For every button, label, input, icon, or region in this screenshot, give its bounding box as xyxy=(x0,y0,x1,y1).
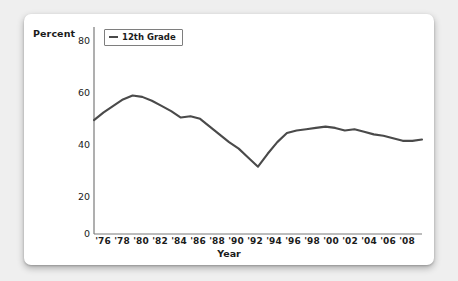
chart-figure: Percent 80 60 40 20 0 '76 '78 '80 '82 '8… xyxy=(24,14,434,265)
plot-canvas xyxy=(24,14,434,265)
legend-item-label: 12th Grade xyxy=(122,32,176,42)
screenshot-root: Percent 80 60 40 20 0 '76 '78 '80 '82 '8… xyxy=(0,0,458,281)
legend-line-swatch-icon xyxy=(109,36,118,38)
data-line-12th-grade xyxy=(94,96,422,167)
x-tick-label-08: '08 xyxy=(394,236,420,246)
x-axis-title: Year xyxy=(24,248,434,259)
chart-legend[interactable]: 12th Grade xyxy=(104,29,183,46)
chart-card: Percent 80 60 40 20 0 '76 '78 '80 '82 '8… xyxy=(24,14,434,265)
